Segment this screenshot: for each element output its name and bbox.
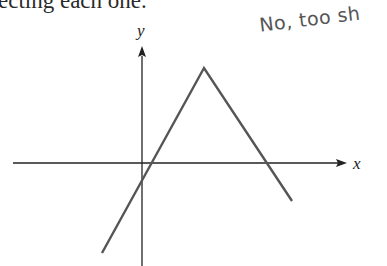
graph-curve	[102, 68, 292, 253]
y-axis-arrow-icon	[138, 46, 146, 57]
y-axis-label: y	[135, 21, 145, 40]
graph: x y	[0, 0, 387, 266]
x-axis-label: x	[352, 154, 361, 173]
